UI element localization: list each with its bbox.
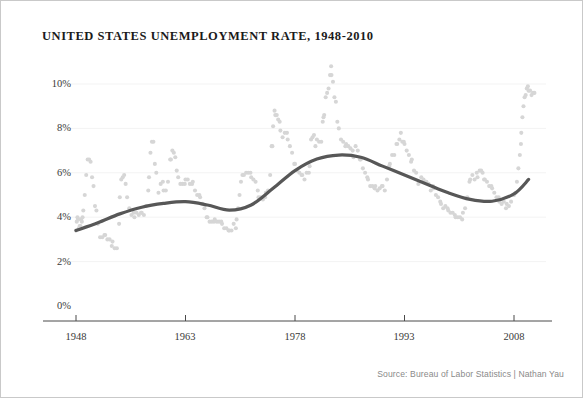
- data-point: [146, 189, 150, 193]
- data-point: [175, 169, 179, 173]
- data-point: [270, 144, 274, 148]
- data-point: [198, 195, 202, 199]
- data-point: [125, 195, 129, 199]
- x-axis-ticks-group: [76, 315, 514, 321]
- y-tick-label-4: 4%: [35, 211, 71, 222]
- data-point: [232, 222, 236, 226]
- data-point: [356, 149, 360, 153]
- data-point: [524, 93, 528, 97]
- data-point: [169, 157, 173, 161]
- data-point: [273, 109, 277, 113]
- source-attribution: Source: Bureau of Labor Statistics | Nat…: [377, 369, 564, 379]
- y-tick-label-10: 10%: [35, 78, 71, 89]
- data-point: [173, 155, 177, 159]
- data-point: [124, 182, 128, 186]
- data-point: [436, 195, 440, 199]
- data-point: [278, 129, 282, 133]
- data-point: [239, 180, 243, 184]
- data-point: [366, 177, 370, 181]
- data-point: [463, 206, 467, 210]
- unemployment-chart-figure: UNITED STATES UNEMPLOYMENT RATE, 1948-20…: [0, 0, 583, 398]
- data-point: [439, 202, 443, 206]
- data-point: [519, 142, 523, 146]
- data-point: [286, 137, 290, 141]
- x-tick-label-1963: 1963: [161, 331, 209, 342]
- data-point: [324, 95, 328, 99]
- data-point: [383, 189, 387, 193]
- data-point: [275, 113, 279, 117]
- x-tick-label-2008: 2008: [490, 331, 538, 342]
- data-point: [176, 175, 180, 179]
- data-point: [313, 144, 317, 148]
- data-point: [470, 173, 474, 177]
- data-point: [94, 208, 98, 212]
- data-point: [490, 186, 494, 190]
- data-point: [80, 220, 84, 224]
- data-point: [91, 184, 95, 188]
- data-point: [172, 151, 176, 155]
- data-point: [268, 173, 272, 177]
- x-tick-label-1978: 1978: [271, 331, 319, 342]
- data-point: [321, 120, 325, 124]
- data-point: [319, 140, 323, 144]
- data-point: [235, 217, 239, 221]
- data-point: [103, 233, 107, 237]
- data-point: [122, 173, 126, 177]
- data-point: [89, 160, 93, 164]
- data-point: [183, 182, 187, 186]
- data-point: [142, 213, 146, 217]
- data-point: [300, 173, 304, 177]
- y-tick-label-8: 8%: [35, 122, 71, 133]
- data-point: [518, 153, 522, 157]
- data-point: [84, 173, 88, 177]
- data-point: [395, 142, 399, 146]
- data-point: [115, 246, 119, 250]
- data-point: [521, 104, 525, 108]
- data-point: [147, 175, 151, 179]
- data-point: [468, 177, 472, 181]
- data-point: [93, 204, 97, 208]
- data-point: [191, 180, 195, 184]
- data-point: [156, 191, 160, 195]
- data-point: [285, 131, 289, 135]
- data-point: [278, 120, 282, 124]
- data-point: [402, 142, 406, 146]
- data-point: [271, 124, 275, 128]
- data-point: [526, 84, 530, 88]
- data-point: [519, 131, 523, 135]
- data-point: [492, 191, 496, 195]
- data-point: [332, 95, 336, 99]
- data-point: [337, 126, 341, 130]
- data-point: [475, 175, 479, 179]
- y-tick-label-6: 6%: [35, 167, 71, 178]
- data-point: [381, 184, 385, 188]
- data-point: [154, 171, 158, 175]
- data-point: [254, 180, 258, 184]
- data-point: [229, 228, 233, 232]
- data-point: [81, 215, 85, 219]
- data-point: [334, 100, 338, 104]
- data-point: [325, 91, 329, 95]
- data-point: [248, 171, 252, 175]
- data-point: [532, 91, 536, 95]
- data-point: [118, 195, 122, 199]
- data-point: [351, 149, 355, 153]
- x-tick-label-1948: 1948: [52, 331, 100, 342]
- data-point: [166, 180, 170, 184]
- data-point: [363, 171, 367, 175]
- data-point: [392, 153, 396, 157]
- data-point: [329, 73, 333, 77]
- data-point: [509, 200, 513, 204]
- data-point: [164, 189, 168, 193]
- data-point: [256, 189, 260, 193]
- data-point: [193, 189, 197, 193]
- data-point: [516, 166, 520, 170]
- data-point: [322, 113, 326, 117]
- data-point: [132, 215, 136, 219]
- y-tick-label-2: 2%: [35, 256, 71, 267]
- data-point: [407, 153, 411, 157]
- data-point: [485, 180, 489, 184]
- data-point: [354, 144, 358, 148]
- data-point: [110, 240, 114, 244]
- data-point: [81, 208, 85, 212]
